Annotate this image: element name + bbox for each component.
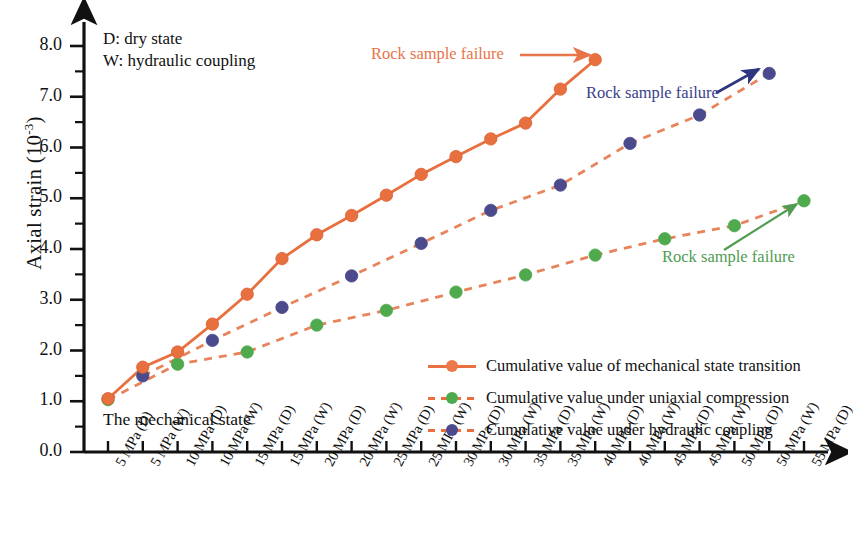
y-tick-label: 6.0: [16, 136, 62, 157]
legend-item-0[interactable]: Cumulative value of mechanical state tra…: [428, 352, 801, 380]
data-point: [589, 249, 601, 261]
y-tick-label: 0.0: [16, 440, 62, 461]
annotation-rock-sample-failure-orange: Rock sample failure: [371, 44, 504, 64]
note-hydraulic-coupling: W: hydraulic coupling: [103, 50, 255, 72]
data-point: [485, 133, 497, 145]
data-point: [380, 189, 392, 201]
data-point: [624, 137, 636, 149]
data-point: [450, 286, 462, 298]
data-point: [693, 109, 705, 121]
data-point: [102, 393, 114, 405]
data-point: [763, 67, 775, 79]
legend-item-1[interactable]: Cumulative value under uniaxial compress…: [428, 384, 801, 412]
legend-marker-dot: [446, 392, 458, 404]
y-tick-label: 7.0: [16, 85, 62, 106]
data-point: [415, 237, 427, 249]
data-point: [206, 334, 218, 346]
legend-marker-dot: [446, 424, 458, 436]
legend-marker-dot: [446, 360, 458, 372]
data-point: [345, 270, 357, 282]
data-point: [276, 301, 288, 313]
legend-item-2[interactable]: Cumulative value under hydraulic couplin…: [428, 416, 801, 444]
data-point: [728, 220, 740, 232]
annotation-rock-sample-failure-blue: Rock sample failure: [586, 83, 719, 103]
data-point: [171, 358, 183, 370]
state-legend-note: D: dry state W: hydraulic coupling: [103, 28, 255, 72]
chart-legend: Cumulative value of mechanical state tra…: [428, 352, 801, 448]
data-point: [589, 54, 601, 66]
y-axis-ticks: [70, 46, 84, 452]
data-point: [345, 209, 357, 221]
y-tick-label: 8.0: [16, 34, 62, 55]
legend-label: Cumulative value under hydraulic couplin…: [486, 422, 773, 439]
annotation-rock-sample-failure-green: Rock sample failure: [662, 247, 795, 267]
data-point: [415, 168, 427, 180]
data-point: [380, 304, 392, 316]
y-tick-label: 1.0: [16, 389, 62, 410]
data-point: [311, 229, 323, 241]
data-point: [206, 318, 218, 330]
data-point: [554, 83, 566, 95]
note-dry-state: D: dry state: [103, 28, 255, 50]
legend-swatch: [428, 422, 476, 438]
data-point: [519, 117, 531, 129]
series-line-2: [143, 73, 769, 376]
legend-label: Cumulative value of mechanical state tra…: [486, 358, 801, 375]
data-point: [171, 346, 183, 358]
data-point: [485, 204, 497, 216]
legend-label: Cumulative value under uniaxial compress…: [486, 390, 789, 407]
data-point: [450, 150, 462, 162]
legend-swatch: [428, 390, 476, 406]
y-tick-label: 4.0: [16, 237, 62, 258]
data-point: [241, 346, 253, 358]
legend-swatch: [428, 358, 476, 374]
y-tick-label: 2.0: [16, 339, 62, 360]
annotation-arrow-blue: [716, 69, 759, 93]
y-tick-label: 5.0: [16, 186, 62, 207]
data-point: [276, 252, 288, 264]
y-tick-label: 3.0: [16, 288, 62, 309]
data-point: [137, 361, 149, 373]
data-point: [659, 233, 671, 245]
data-point: [241, 288, 253, 300]
data-point: [554, 179, 566, 191]
x-axis-title: The mechanical state: [103, 409, 251, 430]
data-point: [311, 319, 323, 331]
data-point: [798, 195, 810, 207]
data-point: [519, 269, 531, 281]
